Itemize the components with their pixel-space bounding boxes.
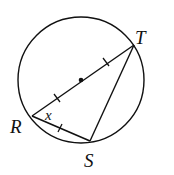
center-point	[79, 78, 84, 83]
label-r: R	[9, 116, 22, 137]
label-t: T	[135, 27, 147, 48]
circle-diagram: T R S x	[0, 0, 174, 175]
label-s: S	[84, 150, 94, 171]
label-angle-x: x	[44, 107, 52, 123]
chord-st	[90, 45, 134, 141]
